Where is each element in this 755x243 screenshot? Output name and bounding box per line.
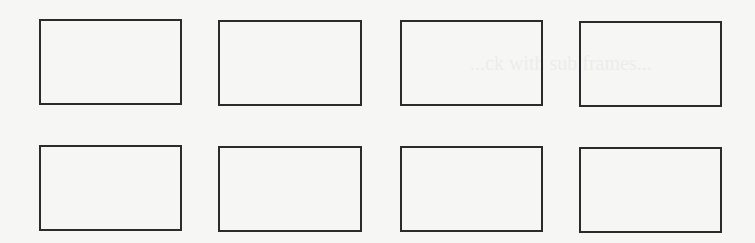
empty-box-r1-c2 xyxy=(218,20,362,106)
empty-box-r2-c4 xyxy=(579,147,722,233)
empty-box-r2-c3 xyxy=(400,146,543,232)
empty-box-r1-c1 xyxy=(39,19,182,105)
empty-box-r1-c4 xyxy=(579,21,722,107)
empty-box-r2-c2 xyxy=(218,146,362,232)
empty-box-r1-c3 xyxy=(400,20,543,106)
empty-box-r2-c1 xyxy=(39,145,182,231)
scanned-page: ...ck with sub frames... xyxy=(0,0,755,243)
